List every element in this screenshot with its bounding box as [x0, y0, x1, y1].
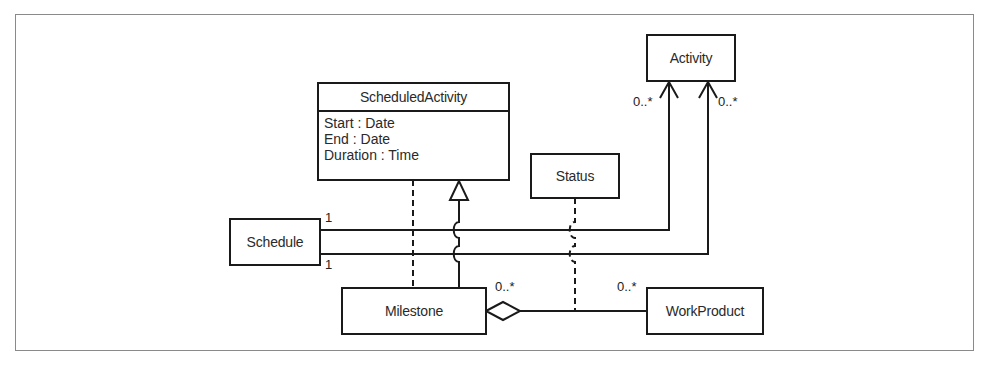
multiplicity-activity-right: 0..*: [718, 94, 738, 109]
generalization-triangle-icon: [450, 181, 468, 200]
class-schedule[interactable]: Schedule: [229, 218, 321, 266]
attribute-list: Start : Date End : Date Duration : Time: [319, 112, 508, 166]
multiplicity-work-product: 0..*: [617, 279, 637, 294]
class-name: Schedule: [231, 220, 319, 264]
attribute-start: Start : Date: [324, 115, 503, 131]
class-name: WorkProduct: [648, 289, 762, 333]
attribute-duration: Duration : Time: [324, 147, 503, 163]
multiplicity-milestone-aggregation: 0..*: [495, 279, 515, 294]
class-name: Milestone: [343, 289, 485, 333]
multiplicity-schedule-bottom: 1: [325, 257, 332, 272]
generalization-line: [454, 200, 459, 287]
class-work-product[interactable]: WorkProduct: [646, 287, 764, 335]
class-name: Activity: [648, 36, 734, 80]
class-name: Status: [532, 155, 618, 197]
multiplicity-activity-left: 0..*: [633, 94, 653, 109]
class-activity[interactable]: Activity: [646, 34, 736, 82]
class-scheduled-activity[interactable]: ScheduledActivity Start : Date End : Dat…: [317, 82, 510, 181]
class-status[interactable]: Status: [530, 153, 620, 199]
connector-layer: [0, 0, 990, 365]
aggregation-diamond-icon: [486, 302, 520, 320]
class-milestone[interactable]: Milestone: [341, 287, 487, 335]
class-name: ScheduledActivity: [319, 84, 508, 112]
attribute-end: End : Date: [324, 131, 503, 147]
multiplicity-schedule-top: 1: [325, 210, 332, 225]
